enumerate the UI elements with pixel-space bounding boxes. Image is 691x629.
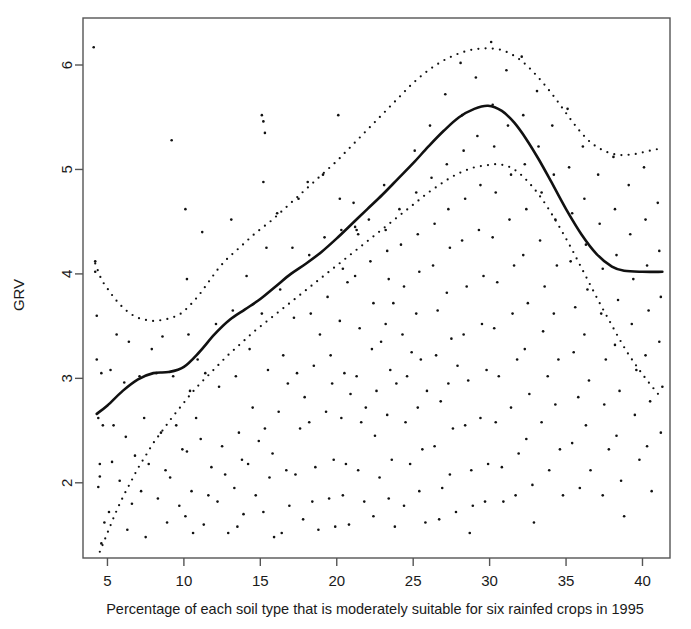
y-tick-label: 2: [58, 479, 75, 487]
x-tick-label: 25: [405, 572, 422, 589]
chart-figure: 510152025303540 23456 GRV Percentage of …: [0, 0, 691, 629]
y-tick-label: 6: [58, 61, 75, 69]
x-tick-label: 40: [634, 572, 651, 589]
x-axis-title: Percentage of each soil type that is mod…: [106, 601, 644, 617]
x-tick-label: 35: [558, 572, 575, 589]
y-tick-label: 3: [58, 374, 75, 382]
x-tick-label: 20: [328, 572, 345, 589]
grv-scatter-plot: 510152025303540 23456 GRV Percentage of …: [0, 0, 691, 629]
y-axis-title: GRV: [10, 279, 27, 311]
x-tick-label: 15: [252, 572, 269, 589]
y-tick-label: 4: [58, 270, 75, 278]
x-tick-label: 5: [103, 572, 111, 589]
x-tick-label: 10: [176, 572, 193, 589]
y-tick-label: 5: [58, 165, 75, 173]
plot-background: [0, 0, 691, 629]
x-tick-label: 30: [481, 572, 498, 589]
